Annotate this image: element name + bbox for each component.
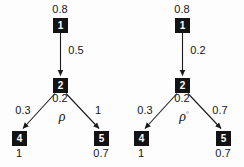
node-value-1: 0.8	[167, 3, 197, 15]
node-1: 1	[175, 18, 190, 33]
edge-weight-1-2: 0.5	[63, 44, 89, 56]
graph-left-symbol: ρ	[42, 108, 82, 125]
node-value-5: 0.7	[208, 147, 238, 159]
edge-weight-2-4: 0.3	[10, 104, 36, 116]
node-4: 4	[12, 131, 27, 146]
node-value-4: 1	[126, 147, 156, 159]
edge-weight-2-4: 0.3	[132, 104, 158, 116]
node-value-2: 0.2	[167, 92, 197, 104]
rho-glyph: ρ	[59, 109, 66, 124]
graph-left: 0.8 0.2 1 0.7 1 2 4 5 0.5 0.3 1 ρ	[0, 0, 122, 167]
node-4: 4	[134, 131, 149, 146]
edge-weight-1-2: 0.2	[185, 44, 211, 56]
node-value-1: 0.8	[45, 3, 75, 15]
node-2: 2	[53, 78, 68, 93]
node-5: 5	[94, 131, 109, 146]
node-2: 2	[175, 78, 190, 93]
rho-superscript: ◦	[186, 108, 189, 117]
graph-right-symbol: ρ◦	[164, 108, 204, 125]
edge-weight-2-5: 0.7	[207, 104, 233, 116]
rho-glyph: ρ	[179, 109, 186, 124]
node-value-5: 0.7	[86, 147, 116, 159]
graph-right: 0.8 0.2 1 0.7 1 2 4 5 0.2 0.3 0.7 ρ◦	[122, 0, 244, 167]
node-value-2: 0.2	[45, 92, 75, 104]
two-graph-figure: 0.8 0.2 1 0.7 1 2 4 5 0.5 0.3 1 ρ 0.	[0, 0, 244, 167]
node-1: 1	[53, 18, 68, 33]
node-value-4: 1	[4, 147, 34, 159]
node-5: 5	[216, 131, 231, 146]
edge-weight-2-5: 1	[85, 104, 111, 116]
